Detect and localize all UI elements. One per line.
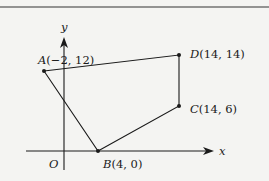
label-b: B(4, 0) [102, 157, 142, 171]
x-axis-label: x [219, 144, 226, 158]
point-d [177, 53, 181, 57]
y-axis-label: y [60, 20, 68, 34]
label-a: A(−2, 12) [37, 53, 94, 67]
origin-label: O [49, 157, 59, 171]
coordinate-diagram: x y O A(−2, 12) B(4, 0) C(14, 6) D(14, 1… [0, 0, 269, 181]
point-b [96, 149, 100, 153]
label-c: C(14, 6) [190, 102, 237, 116]
point-a [42, 69, 46, 73]
point-c [177, 104, 181, 108]
label-d: D(14, 14) [189, 47, 245, 61]
